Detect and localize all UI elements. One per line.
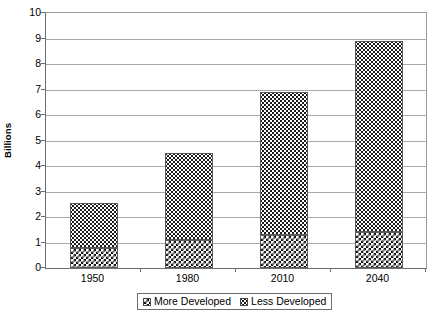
legend-swatch-icon — [143, 298, 151, 306]
y-axis-tick-label: 3 — [15, 186, 41, 197]
x-axis-tick-label: 2040 — [343, 272, 413, 284]
y-axis-tick-label: 6 — [15, 109, 41, 120]
stacked-bar-chart: Billions 109876543210 1950198020102040 M… — [0, 0, 439, 317]
y-axis-tick-label: 9 — [15, 33, 41, 44]
x-axis-tick-label: 1980 — [153, 272, 223, 284]
chart-legend: More DevelopedLess Developed — [137, 293, 332, 310]
legend-item[interactable]: Less Developed — [240, 296, 326, 307]
bar-segment[interactable] — [70, 248, 118, 268]
y-axis-tick-label: 1 — [15, 237, 41, 248]
bar-segment[interactable] — [70, 203, 118, 248]
y-axis-tick-label: 7 — [15, 84, 41, 95]
y-axis-tick-label: 0 — [15, 262, 41, 273]
x-axis-tick-labels: 1950198020102040 — [45, 272, 425, 288]
x-axis-tick-label: 1950 — [58, 272, 128, 284]
legend-label: More Developed — [154, 296, 231, 307]
bar-segment[interactable] — [165, 240, 213, 268]
plot-area — [45, 12, 427, 269]
bar-segment[interactable] — [355, 232, 403, 268]
legend-item[interactable]: More Developed — [143, 296, 231, 307]
x-axis-tick-mark — [425, 268, 426, 272]
y-axis-tick-labels: 109876543210 — [12, 12, 41, 268]
bar-segment[interactable] — [355, 41, 403, 232]
y-axis-tick-label: 2 — [15, 211, 41, 222]
y-axis-tick-label: 5 — [15, 135, 41, 146]
bar-segment[interactable] — [260, 92, 308, 235]
x-axis-tick-label: 2010 — [248, 272, 318, 284]
y-axis-tick-label: 4 — [15, 160, 41, 171]
bar-segment[interactable] — [165, 153, 213, 240]
gridline — [46, 39, 426, 40]
y-axis-tick-label: 8 — [15, 58, 41, 69]
y-axis-tick-label: 10 — [15, 7, 41, 18]
bar-segment[interactable] — [260, 235, 308, 268]
legend-label: Less Developed — [251, 296, 326, 307]
legend-swatch-icon — [240, 298, 248, 306]
